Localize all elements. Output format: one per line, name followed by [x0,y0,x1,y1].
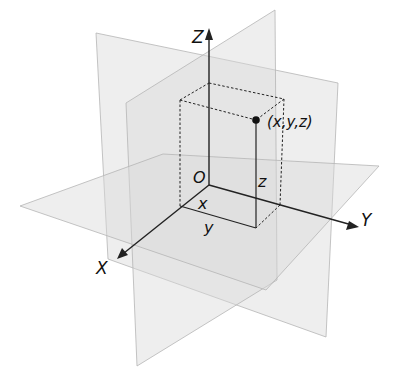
z-arrow-icon [205,28,213,40]
y-arrow-icon [346,221,359,230]
coordinate-diagram: Z Y X O (x,y,z) z x y [0,0,400,384]
y-component-label: y [203,218,214,237]
z-axis-label: Z [191,27,204,47]
x-component-label: x [197,194,208,213]
point-marker [252,116,260,124]
z-component-label: z [257,172,267,191]
x-axis-label: X [95,258,108,278]
point-label: (x,y,z) [267,113,313,131]
y-axis-label: Y [361,210,373,230]
origin-label: O [193,168,206,187]
